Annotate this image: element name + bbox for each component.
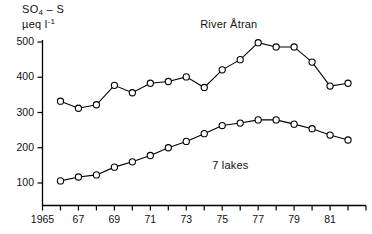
data-point-marker: [237, 120, 243, 126]
y-axis-tick-label: 300: [0, 106, 34, 118]
data-point-marker: [291, 44, 297, 50]
data-point-marker: [165, 145, 171, 151]
data-point-marker: [183, 74, 189, 80]
data-point-marker: [237, 57, 243, 63]
x-axis-tick-label: 79: [274, 213, 314, 225]
data-point-marker: [57, 178, 63, 184]
data-point-marker: [111, 82, 117, 88]
data-point-marker: [93, 172, 99, 178]
x-axis-tick-label: 1965: [23, 213, 63, 225]
series-annotation-river-atran: River Åtran: [200, 18, 257, 30]
data-point-marker: [93, 102, 99, 108]
data-point-marker: [309, 59, 315, 65]
y-axis-tick-label: 200: [0, 141, 34, 153]
data-point-marker: [291, 121, 297, 127]
data-point-marker: [327, 83, 333, 89]
data-point-marker: [201, 84, 207, 90]
series-line: [60, 120, 348, 181]
series-river-atran: [57, 40, 351, 112]
data-series-group: [57, 40, 351, 184]
data-point-marker: [129, 159, 135, 165]
data-point-marker: [345, 80, 351, 86]
plot-area: [0, 0, 372, 234]
data-point-marker: [57, 98, 63, 104]
x-axis-tick-label: 73: [166, 213, 206, 225]
data-point-marker: [147, 80, 153, 86]
x-axis-tick-label: 81: [310, 213, 350, 225]
x-axis-tick-label: 75: [202, 213, 242, 225]
data-point-marker: [309, 126, 315, 132]
x-axis-tick-label: 71: [130, 213, 170, 225]
x-axis-tick-label: 67: [58, 213, 98, 225]
data-point-marker: [273, 117, 279, 123]
data-point-marker: [255, 117, 261, 123]
data-point-marker: [111, 164, 117, 170]
series-annotation-7-lakes: 7 lakes: [212, 159, 248, 171]
y-axis-ticks: [38, 42, 43, 183]
data-point-marker: [147, 152, 153, 158]
data-point-marker: [75, 105, 81, 111]
y-axis-tick-label: 500: [0, 35, 34, 47]
data-point-marker: [165, 78, 171, 84]
x-axis-tick-label: 77: [238, 213, 278, 225]
x-axis-ticks: [43, 206, 367, 211]
data-point-marker: [345, 137, 351, 143]
axes: [43, 40, 367, 206]
data-point-marker: [219, 122, 225, 128]
data-point-marker: [183, 138, 189, 144]
data-point-marker: [219, 67, 225, 73]
data-point-marker: [75, 174, 81, 180]
data-point-marker: [129, 90, 135, 96]
data-point-marker: [201, 131, 207, 137]
chart-figure: SO4 – S µeq l-1 100200300400500 19656769…: [0, 0, 372, 234]
x-axis-tick-label: 69: [94, 213, 134, 225]
data-point-marker: [327, 132, 333, 138]
y-axis-tick-label: 400: [0, 70, 34, 82]
data-point-marker: [255, 40, 261, 46]
series-7-lakes: [57, 117, 351, 184]
series-line: [60, 43, 348, 109]
data-point-marker: [273, 44, 279, 50]
y-axis-tick-label: 100: [0, 176, 34, 188]
